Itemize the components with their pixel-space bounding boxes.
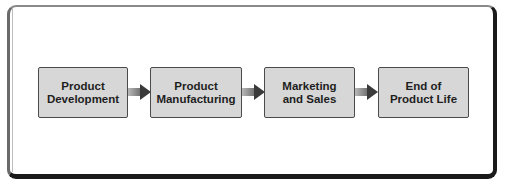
flow-diagram: Product Development Product Manufacturin… [0, 0, 507, 188]
arrow-head [367, 84, 378, 100]
stage-label-line1: Product [156, 80, 235, 93]
arrow-right-icon [355, 83, 378, 101]
arrow-right-icon [242, 83, 265, 101]
arrow-right-icon [128, 83, 151, 101]
stage-end-of-product-life: End of Product Life [378, 67, 469, 118]
stage-label-line2: Manufacturing [156, 93, 235, 106]
stage-product-development: Product Development [38, 67, 128, 118]
stage-label-line2: Product Life [390, 93, 457, 106]
stage-label-line1: Product [47, 80, 119, 93]
stage-label-line2: and Sales [282, 93, 336, 106]
stage-label-line1: Marketing [282, 80, 336, 93]
stage-marketing-and-sales: Marketing and Sales [264, 67, 355, 118]
stage-label-line1: End of [390, 80, 457, 93]
stage-product-manufacturing: Product Manufacturing [150, 67, 242, 118]
stage-label-line2: Development [47, 93, 119, 106]
